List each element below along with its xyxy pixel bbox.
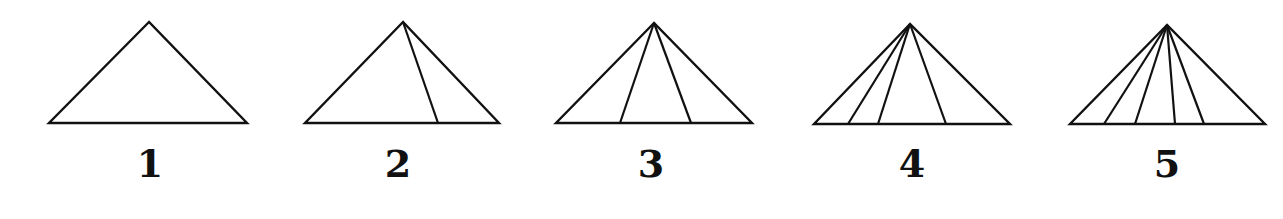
interior-line bbox=[403, 22, 438, 123]
interior-line bbox=[654, 23, 691, 123]
triangle-label: 1 bbox=[137, 145, 163, 183]
triangle-sequence-figure: 12345 bbox=[0, 0, 1283, 219]
interior-line bbox=[848, 24, 910, 124]
triangle-2 bbox=[305, 22, 499, 123]
triangles-canvas bbox=[0, 0, 1283, 219]
triangle-outline bbox=[49, 22, 247, 123]
triangle-4 bbox=[814, 24, 1010, 124]
triangle-label: 3 bbox=[638, 145, 664, 183]
triangle-label: 5 bbox=[1154, 145, 1180, 183]
triangle-5 bbox=[1070, 25, 1265, 124]
interior-line bbox=[620, 23, 654, 123]
triangle-outline bbox=[305, 22, 499, 123]
triangle-outline bbox=[814, 24, 1010, 124]
interior-line bbox=[1104, 25, 1167, 124]
triangle-label: 2 bbox=[385, 145, 411, 183]
interior-line bbox=[910, 24, 946, 124]
interior-line bbox=[1167, 25, 1175, 124]
interior-line bbox=[1167, 25, 1204, 124]
triangle-3 bbox=[556, 23, 752, 123]
triangle-outline bbox=[556, 23, 752, 123]
triangle-label: 4 bbox=[899, 145, 925, 183]
triangle-1 bbox=[49, 22, 247, 123]
